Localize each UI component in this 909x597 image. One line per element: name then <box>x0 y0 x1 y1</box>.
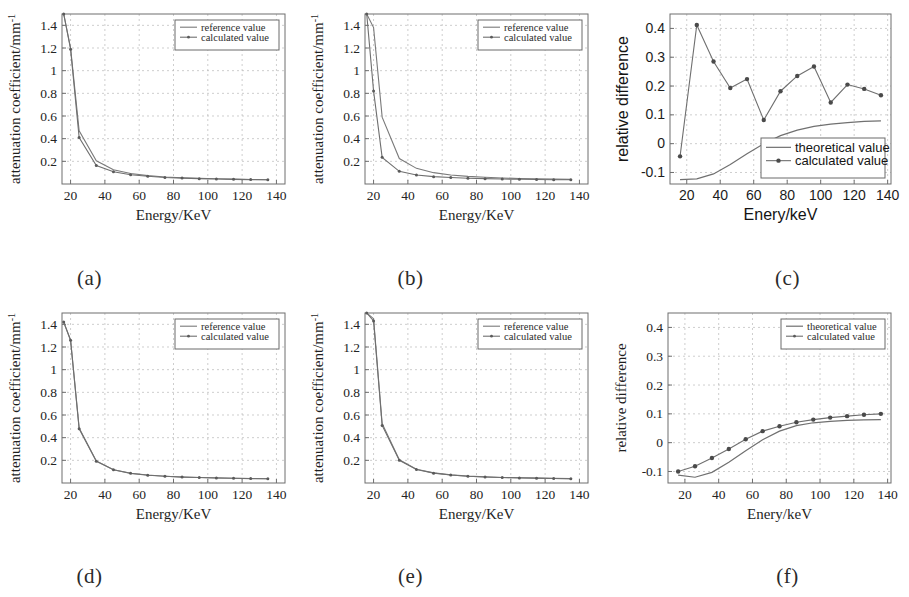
chart-b: 204060801001201400.20.40.60.811.21.4Ener… <box>303 0 606 252</box>
figure-grid: 204060801001201400.20.40.60.811.21.4Ener… <box>0 0 909 597</box>
svg-text:0.8: 0.8 <box>343 384 360 399</box>
svg-text:120: 120 <box>842 187 866 203</box>
svg-text:0.2: 0.2 <box>40 452 57 467</box>
svg-text:calculated value: calculated value <box>807 330 875 341</box>
svg-text:Energy/KeV: Energy/KeV <box>136 506 212 522</box>
svg-text:80: 80 <box>780 487 794 502</box>
svg-text:Energy/KeV: Energy/KeV <box>439 207 515 223</box>
svg-text:80: 80 <box>470 487 484 502</box>
svg-text:calculated value: calculated value <box>795 153 888 168</box>
panel-label-d: (d) <box>0 564 241 589</box>
svg-text:1: 1 <box>50 63 57 78</box>
svg-text:120: 120 <box>535 188 556 203</box>
svg-text:100: 100 <box>809 187 833 203</box>
svg-text:calculated value: calculated value <box>201 330 269 341</box>
svg-text:1: 1 <box>353 362 360 377</box>
svg-text:Energy/KeV: Energy/KeV <box>136 207 212 223</box>
svg-text:60: 60 <box>435 188 449 203</box>
svg-text:0.4: 0.4 <box>343 131 360 146</box>
svg-text:60: 60 <box>746 487 760 502</box>
svg-text:1.2: 1.2 <box>343 41 360 56</box>
svg-text:0.4: 0.4 <box>343 430 360 445</box>
svg-text:60: 60 <box>746 187 762 203</box>
svg-text:60: 60 <box>435 487 449 502</box>
panel-d: 204060801001201400.20.40.60.811.21.4Ener… <box>0 299 303 597</box>
svg-text:40: 40 <box>712 487 726 502</box>
svg-text:0.6: 0.6 <box>40 109 57 124</box>
svg-text:1: 1 <box>50 362 57 377</box>
plot-d: 204060801001201400.20.40.60.811.21.4Ener… <box>0 299 303 551</box>
svg-text:0.2: 0.2 <box>40 154 57 169</box>
svg-text:60: 60 <box>132 487 146 502</box>
svg-text:80: 80 <box>779 187 795 203</box>
panel-c: 20406080100120140-0.100.10.20.30.4Enery/… <box>606 0 909 299</box>
svg-text:0.6: 0.6 <box>343 407 360 422</box>
svg-text:20: 20 <box>679 187 695 203</box>
panel-label-b: (b) <box>259 266 562 291</box>
svg-text:1: 1 <box>353 63 360 78</box>
svg-text:relative difference: relative difference <box>614 36 631 162</box>
svg-text:100: 100 <box>198 188 219 203</box>
plot-b: 204060801001201400.20.40.60.811.21.4Ener… <box>303 0 606 252</box>
svg-text:0.2: 0.2 <box>343 452 360 467</box>
svg-text:40: 40 <box>98 487 112 502</box>
svg-text:0.3: 0.3 <box>646 49 666 65</box>
svg-text:60: 60 <box>132 188 146 203</box>
svg-text:100: 100 <box>501 487 522 502</box>
svg-text:100: 100 <box>501 188 522 203</box>
svg-text:0.4: 0.4 <box>646 319 663 334</box>
svg-text:attenuation coefficient/mm-1: attenuation coefficient/mm-1 <box>6 14 23 184</box>
plot-e: 204060801001201400.20.40.60.811.21.4Ener… <box>303 299 606 551</box>
svg-text:-0.1: -0.1 <box>641 164 665 180</box>
svg-text:1.4: 1.4 <box>40 316 57 331</box>
svg-text:calculated value: calculated value <box>201 32 269 43</box>
chart-c: 20406080100120140-0.100.10.20.30.4Enery/… <box>606 0 909 252</box>
svg-text:calculated value: calculated value <box>504 330 572 341</box>
svg-text:20: 20 <box>678 487 692 502</box>
svg-text:20: 20 <box>64 188 78 203</box>
svg-text:140: 140 <box>569 188 590 203</box>
svg-text:140: 140 <box>569 487 590 502</box>
svg-text:0.4: 0.4 <box>40 131 57 146</box>
svg-text:1.4: 1.4 <box>40 18 57 33</box>
svg-text:1.2: 1.2 <box>40 41 57 56</box>
svg-text:Enery/keV: Enery/keV <box>747 506 812 522</box>
plot-a: 204060801001201400.20.40.60.811.21.4Ener… <box>0 0 303 252</box>
svg-text:100: 100 <box>810 487 831 502</box>
svg-text:0.8: 0.8 <box>40 86 57 101</box>
svg-text:120: 120 <box>232 487 253 502</box>
panel-label-e: (e) <box>259 564 562 589</box>
svg-text:1.4: 1.4 <box>343 316 360 331</box>
panel-label-c: (c) <box>636 266 909 291</box>
svg-text:40: 40 <box>712 187 728 203</box>
svg-text:1.4: 1.4 <box>343 18 360 33</box>
svg-text:attenuation coefficient/mm-1: attenuation coefficient/mm-1 <box>6 312 23 482</box>
svg-text:0.4: 0.4 <box>646 20 666 36</box>
svg-text:120: 120 <box>535 487 556 502</box>
svg-text:120: 120 <box>232 188 253 203</box>
svg-text:40: 40 <box>401 487 415 502</box>
svg-text:140: 140 <box>266 487 287 502</box>
svg-text:100: 100 <box>198 487 219 502</box>
panel-label-a: (a) <box>0 266 241 291</box>
svg-text:140: 140 <box>266 188 287 203</box>
chart-d: 204060801001201400.20.40.60.811.21.4Ener… <box>0 299 303 551</box>
plot-c: 20406080100120140-0.100.10.20.30.4Enery/… <box>606 0 909 252</box>
svg-text:relative difference: relative difference <box>613 343 629 453</box>
svg-text:80: 80 <box>167 188 181 203</box>
svg-text:Energy/KeV: Energy/KeV <box>439 506 515 522</box>
panel-b: 204060801001201400.20.40.60.811.21.4Ener… <box>303 0 606 299</box>
svg-text:140: 140 <box>877 487 898 502</box>
panel-f: 20406080100120140-0.100.10.20.30.4Enery/… <box>606 299 909 597</box>
chart-a: 204060801001201400.20.40.60.811.21.4Ener… <box>0 0 303 252</box>
svg-text:80: 80 <box>470 188 484 203</box>
panel-a: 204060801001201400.20.40.60.811.21.4Ener… <box>0 0 303 299</box>
svg-text:0: 0 <box>656 435 663 450</box>
chart-f: 20406080100120140-0.100.10.20.30.4Enery/… <box>606 299 909 551</box>
svg-text:140: 140 <box>876 187 900 203</box>
svg-text:20: 20 <box>64 487 78 502</box>
svg-text:0: 0 <box>657 135 665 151</box>
svg-text:0.2: 0.2 <box>646 78 666 94</box>
panel-e: 204060801001201400.20.40.60.811.21.4Ener… <box>303 299 606 597</box>
svg-text:0.6: 0.6 <box>343 109 360 124</box>
